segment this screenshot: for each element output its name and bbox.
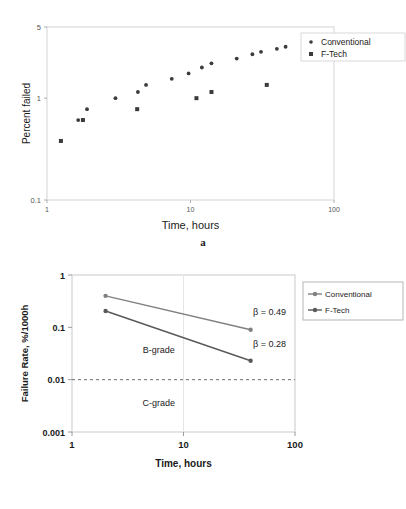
data-point-f-tech: [59, 139, 63, 143]
legend-label-conventional: Conventional: [325, 290, 372, 299]
y-axis-title: Percent failed: [21, 83, 32, 144]
data-points-group: [59, 45, 288, 143]
annotation-label: β = 0.28: [253, 339, 286, 349]
data-point-f-tech: [265, 83, 269, 87]
scatter-chart-percent-failed: 0.115110100Time, hoursPercent failedConv…: [0, 0, 406, 236]
data-point-conventional: [210, 61, 214, 65]
data-point-conventional: [275, 47, 279, 51]
data-point-f-tech: [194, 96, 198, 100]
y-axis-tick-label: 0.1: [31, 196, 41, 205]
x-axis-tick-label: 1: [69, 439, 75, 450]
data-point-conventional: [136, 90, 140, 94]
data-point-conventional: [76, 118, 80, 122]
data-point-conventional: [200, 66, 204, 70]
data-point-f-tech: [81, 118, 85, 122]
series-marker-f-tech: [248, 359, 252, 363]
data-point-f-tech: [135, 107, 139, 111]
y-axis-tick-label: 1: [60, 271, 65, 281]
data-point-f-tech: [209, 90, 213, 94]
figure-b: 0.0010.010.11110100Time, hoursFailure Ra…: [0, 255, 406, 509]
series-line-conventional: [106, 296, 251, 330]
legend-marker-conventional: [313, 292, 317, 296]
line-chart-failure-rate: 0.0010.010.11110100Time, hoursFailure Ra…: [0, 255, 406, 486]
y-axis-tick-label: 0.1: [52, 323, 65, 333]
annotation-label: C-grade: [143, 398, 176, 408]
y-axis-tick-label: 1: [37, 94, 41, 103]
x-axis-tick-label: 1: [45, 206, 49, 213]
x-axis-tick-label: 10: [178, 439, 189, 450]
data-point-conventional: [251, 52, 255, 56]
x-axis-title: Time, hours: [162, 219, 220, 231]
data-point-conventional: [259, 50, 263, 54]
x-axis-tick-label: 10: [187, 206, 195, 213]
figure-a-caption: a: [0, 236, 406, 248]
data-point-conventional: [284, 45, 288, 49]
data-point-conventional: [235, 57, 239, 61]
series-marker-conventional: [103, 294, 107, 298]
legend-marker-conventional: [309, 40, 313, 44]
x-axis-tick-label: 100: [328, 206, 340, 213]
data-point-conventional: [187, 72, 191, 76]
data-point-conventional: [85, 107, 89, 111]
figure-a: 0.115110100Time, hoursPercent failedConv…: [0, 0, 406, 255]
x-axis-title: Time, hours: [155, 458, 212, 469]
data-point-conventional: [114, 96, 118, 100]
legend-marker-f-tech: [309, 52, 313, 56]
annotation-label: β = 0.49: [253, 307, 286, 317]
y-axis-tick-label: 0.001: [42, 428, 65, 438]
y-axis-tick-label: 5: [37, 23, 41, 32]
plot-frame: [47, 27, 334, 200]
y-axis-tick-label: 0.01: [47, 375, 65, 385]
legend-label-f-tech: F-Tech: [321, 49, 347, 59]
series-marker-conventional: [248, 328, 252, 332]
data-point-conventional: [144, 83, 148, 87]
annotation-label: B-grade: [143, 345, 175, 355]
x-axis-tick-label: 100: [287, 439, 303, 450]
legend-box: [303, 282, 403, 320]
series-line-f-tech: [106, 311, 251, 361]
legend-label-conventional: Conventional: [321, 37, 371, 47]
series-marker-f-tech: [103, 309, 107, 313]
y-axis-title: Failure Rate, %/1000h: [19, 304, 30, 402]
legend-label-f-tech: F-Tech: [325, 306, 349, 315]
data-point-conventional: [170, 77, 174, 81]
legend-marker-f-tech: [313, 308, 317, 312]
